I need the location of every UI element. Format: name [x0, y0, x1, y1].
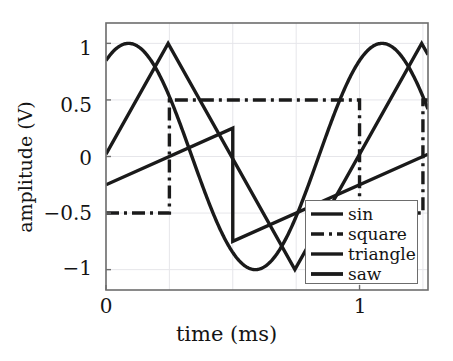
ytick-label-0: 0 [40, 148, 92, 168]
ytick-label-neg0_5: −0.5 [32, 203, 92, 223]
legend-swatch-square-icon [310, 228, 344, 240]
legend-item-triangle[interactable]: triangle [306, 244, 417, 264]
legend-swatch-saw-icon [310, 268, 344, 280]
legend-label-sin: sin [348, 206, 373, 223]
ytick-label-0_5: 0.5 [40, 95, 92, 115]
legend-item-saw[interactable]: saw [306, 264, 417, 284]
x-axis-label: time (ms) [0, 322, 453, 346]
xtick-label-1: 1 [354, 296, 367, 316]
legend-label-square: square [348, 226, 407, 243]
xtick-label-0: 0 [100, 296, 113, 316]
y-axis-label: amplitude (V) [14, 67, 36, 267]
legend-item-square[interactable]: square [306, 224, 417, 244]
legend-swatch-triangle-icon [310, 248, 344, 260]
legend-item-sin[interactable]: sin [306, 204, 417, 224]
legend-label-triangle: triangle [348, 246, 416, 263]
ytick-label-1: 1 [40, 38, 92, 58]
chart-figure: 1 0.5 0 −0.5 −1 0 1 time (ms) amplitude … [0, 0, 453, 361]
ytick-label-neg1: −1 [32, 258, 92, 278]
legend-label-saw: saw [348, 266, 381, 283]
legend-box[interactable]: sin square triangle saw [305, 200, 418, 284]
legend-swatch-sin-icon [310, 208, 344, 220]
